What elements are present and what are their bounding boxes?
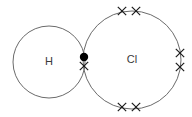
electron-cross	[118, 7, 126, 15]
bonding-electron-dot	[80, 53, 88, 61]
hydrogen-atom-label: H	[45, 55, 53, 67]
dot-and-cross-diagram: H Cl	[0, 0, 192, 117]
lone-pair-bottom-group	[118, 103, 140, 111]
electron-cross	[132, 103, 140, 111]
diagram-canvas: H Cl	[0, 0, 192, 117]
chlorine-atom-label: Cl	[127, 53, 137, 65]
